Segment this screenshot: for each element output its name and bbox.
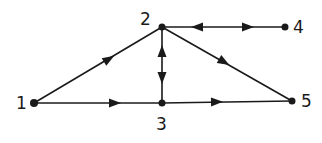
- node-3: 3: [156, 100, 167, 135]
- arrow-up-icon: [158, 45, 167, 57]
- arrow-down-icon: [158, 72, 167, 84]
- edge-1-3: [34, 99, 162, 108]
- arrow-icon: [217, 55, 232, 69]
- node-label: 1: [16, 93, 27, 113]
- edge-2-4: [162, 23, 285, 32]
- node-label: 3: [156, 114, 167, 134]
- edge-3-5: [162, 97, 292, 106]
- arrow-left-icon: [191, 23, 203, 32]
- node-2: 2: [140, 9, 166, 31]
- arrow-right-icon: [242, 23, 254, 32]
- edge-2-5: [162, 27, 292, 101]
- node-4: 4: [282, 17, 304, 37]
- edge-1-2: [34, 27, 162, 103]
- arrow-icon: [109, 99, 121, 108]
- directed-graph: 1 2 3 4 5: [0, 0, 322, 143]
- node-label: 5: [301, 91, 312, 111]
- node-5: 5: [289, 91, 312, 111]
- edge-2-3: [158, 27, 167, 103]
- arrow-icon: [211, 97, 223, 106]
- arrow-icon: [102, 52, 117, 66]
- node-label: 2: [140, 9, 151, 29]
- node-label: 4: [293, 17, 304, 37]
- node-1: 1: [16, 93, 38, 113]
